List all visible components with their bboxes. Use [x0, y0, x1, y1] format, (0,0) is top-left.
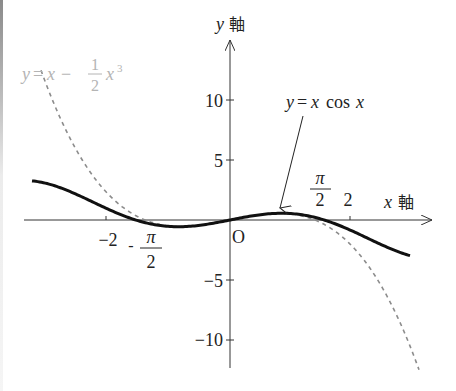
svg-text:x: x — [46, 64, 55, 84]
pi-half-den: 2 — [316, 190, 325, 210]
solid-curve-xcosx — [32, 181, 410, 256]
origin-label: O — [232, 227, 245, 247]
svg-text:x: x — [105, 64, 114, 84]
neg-pi-half-sign: - — [128, 237, 133, 254]
x-axis-var: x — [383, 192, 392, 212]
svg-text:3: 3 — [117, 62, 123, 74]
svg-text:y: y — [20, 64, 30, 84]
plot-area: y 軸 x 軸 O 10 5 −5 −10 −2 2 - π 2 π 2 y =… — [0, 0, 456, 391]
x-axis-kanji: 軸 — [398, 194, 414, 211]
svg-text:−: − — [61, 64, 71, 84]
neg-pi-half-num: π — [146, 227, 156, 247]
annotation-arrow — [280, 116, 303, 208]
solid-curve-label: y = x cos x — [284, 92, 364, 112]
svg-text:=: = — [33, 64, 43, 84]
y-tick-label-5: 5 — [214, 151, 223, 171]
svg-text:y: y — [284, 92, 294, 112]
y-tick-label-neg5: −5 — [204, 271, 223, 291]
y-axis-kanji: 軸 — [229, 16, 245, 33]
x-tick-label-pos2: 2 — [344, 190, 353, 210]
svg-text:=: = — [297, 92, 307, 112]
y-tick-label-10: 10 — [205, 91, 223, 111]
neg-pi-half-den: 2 — [147, 252, 156, 272]
svg-text:2: 2 — [91, 77, 99, 94]
pi-half-num: π — [315, 168, 325, 188]
chart-frame: y 軸 x 軸 O 10 5 −5 −10 −2 2 - π 2 π 2 y =… — [0, 0, 456, 391]
dashed-curve-label: y = x − 1 2 x 3 — [20, 56, 123, 94]
y-axis-var: y — [214, 14, 224, 34]
x-tick-label-neg2: −2 — [98, 230, 117, 250]
svg-text:x: x — [355, 92, 364, 112]
y-tick-label-neg10: −10 — [195, 330, 223, 350]
svg-text:x: x — [310, 92, 319, 112]
svg-text:cos: cos — [326, 92, 350, 112]
svg-text:1: 1 — [91, 56, 99, 73]
